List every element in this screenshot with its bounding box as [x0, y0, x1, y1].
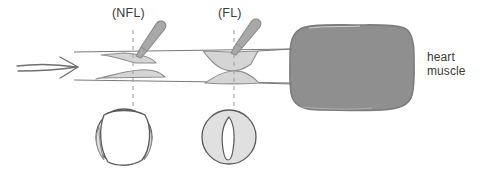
heart-muscle-line-1: heart — [427, 50, 455, 64]
cross-section-nfl — [96, 109, 152, 165]
diagram-canvas: (NFL) (FL) heartmuscle — [0, 0, 484, 183]
heart-muscle-blob — [290, 25, 414, 111]
cross-section-fl — [202, 110, 256, 164]
blood-flow-arrow — [17, 57, 78, 78]
label-nfl: (NFL) — [112, 6, 145, 21]
artery-longitudinal-section — [74, 49, 292, 84]
artery-stenosis-diagram — [0, 0, 484, 183]
label-heart-muscle: heartmuscle — [427, 50, 466, 78]
heart-muscle-line-2: muscle — [427, 64, 466, 78]
probe-nfl — [136, 21, 166, 58]
label-fl: (FL) — [218, 6, 242, 21]
